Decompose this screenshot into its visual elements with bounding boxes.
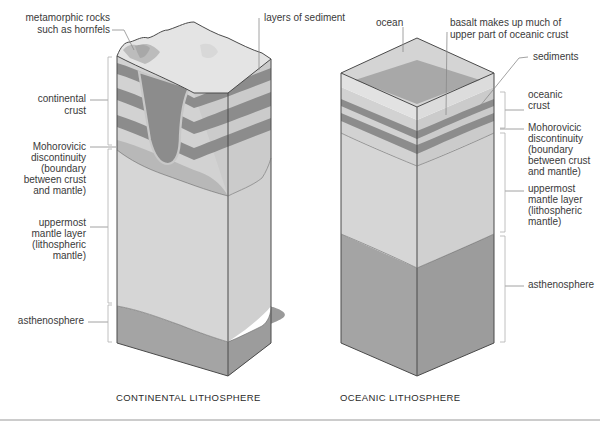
- label-o-moho-5: and mantle): [528, 166, 581, 177]
- label-o-moho-2: discontinuity: [528, 133, 583, 144]
- lithosphere-diagram: metamorphic rocks such as hornfels layer…: [0, 0, 600, 432]
- label-oceanic-crust-2: crust: [528, 100, 550, 111]
- label-oceanic-crust-1: oceanic: [528, 89, 562, 100]
- label-metamorphic-2: such as hornfels: [37, 24, 110, 35]
- label-c-mantle-2: mantle layer: [32, 228, 87, 239]
- label-sediments: sediments: [533, 51, 579, 62]
- caption-continental: CONTINENTAL LITHOSPHERE: [116, 392, 261, 403]
- label-o-moho-3: (boundary: [528, 144, 573, 155]
- label-sediment-layers: layers of sediment: [264, 12, 345, 23]
- label-o-mantle-2: mantle layer: [528, 194, 583, 205]
- label-basalt-1: basalt makes up much of: [450, 17, 561, 28]
- label-metamorphic-1: metamorphic rocks: [26, 12, 110, 23]
- bracket-oceanic-crust: [500, 92, 505, 128]
- label-c-moho-3: (boundary: [41, 163, 86, 174]
- bracket-c-asthenosphere: [108, 305, 112, 342]
- bracket-o-mantle: [500, 133, 505, 232]
- label-c-asthenosphere: asthenosphere: [18, 315, 85, 326]
- label-c-mantle-3: (lithospheric: [32, 239, 86, 250]
- label-o-mantle-3: (lithospheric: [528, 205, 582, 216]
- label-c-moho-2: discontinuity: [31, 152, 86, 163]
- label-c-moho-1: Mohorovicic: [33, 141, 86, 152]
- continental-block: [117, 22, 285, 376]
- label-o-moho-1: Mohorovicic: [528, 122, 581, 133]
- label-c-mantle-4: mantle): [53, 250, 86, 261]
- label-o-asthenosphere: asthenosphere: [528, 279, 595, 290]
- caption-oceanic: OCEANIC LITHOSPHERE: [340, 392, 461, 403]
- label-o-mantle-1: uppermost: [528, 183, 575, 194]
- label-ocean: ocean: [376, 17, 403, 28]
- label-o-moho-4: between crust: [528, 155, 590, 166]
- bracket-c-mantle: [108, 149, 112, 303]
- bracket-o-asthenosphere: [500, 236, 505, 342]
- label-c-moho-5: and mantle): [33, 185, 86, 196]
- label-c-moho-4: between crust: [24, 174, 86, 185]
- label-continental-crust-2: crust: [64, 105, 86, 116]
- label-c-mantle-1: uppermost: [39, 217, 86, 228]
- label-basalt-2: upper part of oceanic crust: [450, 29, 569, 40]
- label-o-mantle-4: mantle): [528, 216, 561, 227]
- oceanic-block: [341, 38, 494, 376]
- bracket-continental-crust: [108, 57, 112, 145]
- label-continental-crust-1: continental: [38, 93, 86, 104]
